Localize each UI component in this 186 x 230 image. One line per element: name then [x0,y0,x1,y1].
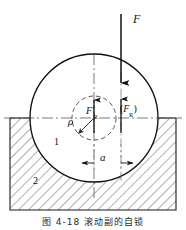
figure-caption: 图 4-18 滚动副的自锁 [0,215,186,228]
label-offset-distance: a [100,152,106,163]
label-reaction-force-prime: F′R [86,106,98,118]
figure-rolling-pair-self-locking: F F′R (FR) ρ a 1 2 图 4-18 滚动副的自锁 [0,0,186,230]
label-paren-close: ) [134,103,137,114]
label-friction-circle-radius: ρ [68,116,73,127]
ground-block [10,118,176,210]
label-applied-force: F [133,13,140,25]
label-resultant-reaction-force: (FR) [120,104,137,116]
label-body-one: 1 [54,137,59,147]
label-body-two: 2 [33,176,38,186]
label-resultant-subscript: R [129,111,133,118]
label-reaction-force-prime-subscript: R [94,113,98,120]
